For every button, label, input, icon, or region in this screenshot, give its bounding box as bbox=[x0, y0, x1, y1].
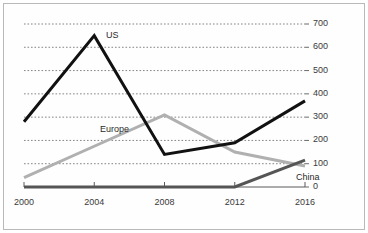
series-label-china: China bbox=[296, 172, 320, 182]
y-axis-tick-label: 400 bbox=[313, 88, 328, 98]
chart-figure: 7006005004003002001000 20002004200820122… bbox=[0, 0, 368, 233]
y-axis-tick-label: 100 bbox=[313, 158, 328, 168]
y-axis-tick-label: 700 bbox=[313, 18, 328, 28]
x-axis-tick-label: 2004 bbox=[84, 197, 104, 207]
y-axis-tick-label: 200 bbox=[313, 134, 328, 144]
gridlines-group bbox=[24, 24, 305, 164]
x-axis-tick-label: 2012 bbox=[225, 197, 245, 207]
x-axis-tick-label: 2008 bbox=[154, 197, 174, 207]
series-label-us: US bbox=[106, 30, 119, 40]
y-axis-tick-label: 600 bbox=[313, 41, 328, 51]
y-axis-tick-label: 500 bbox=[313, 65, 328, 75]
y-axis-tick-label: 300 bbox=[313, 111, 328, 121]
series-lines-group bbox=[24, 36, 305, 187]
x-axis-tick-label: 2000 bbox=[14, 197, 34, 207]
series-line-us bbox=[24, 36, 305, 155]
x-axis-tick-label: 2016 bbox=[295, 197, 315, 207]
series-label-europe: Europe bbox=[100, 124, 129, 134]
axes-group bbox=[24, 24, 309, 187]
y-axis-tick-label: 0 bbox=[313, 181, 318, 191]
